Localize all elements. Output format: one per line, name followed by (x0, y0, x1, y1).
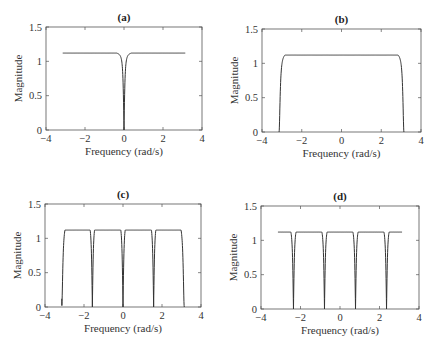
y-axis-label: Magnitude (228, 57, 240, 105)
subplot-title: (a) (118, 11, 131, 24)
y-tick-label: 1.5 (244, 201, 257, 212)
x-tick-label: 0 (121, 133, 126, 144)
x-tick-label: −2 (78, 310, 89, 321)
x-tick-label: −4 (39, 310, 51, 321)
y-tick-label: 1 (37, 56, 42, 67)
axes-frame (261, 206, 419, 309)
x-tick-label: −4 (255, 312, 267, 323)
subplot-b: −4−202400.511.5(b)Frequency (rad/s)Magni… (228, 13, 424, 160)
x-tick-label: −4 (256, 135, 268, 146)
subplot-title: (b) (335, 13, 349, 26)
y-tick-label: 0 (37, 125, 42, 136)
x-axis-label: Frequency (rad/s) (84, 322, 162, 335)
y-axis-label: Magnitude (227, 234, 239, 282)
y-tick-label: 1 (36, 233, 41, 244)
y-axis-label: Magnitude (12, 55, 24, 103)
subplot-title: (c) (117, 188, 130, 201)
x-tick-label: −4 (40, 133, 52, 144)
x-tick-label: 4 (416, 312, 422, 323)
magnitude-curve (63, 53, 186, 130)
axes-frame (262, 29, 421, 132)
x-tick-label: 0 (339, 135, 344, 146)
y-tick-label: 1.5 (28, 199, 41, 210)
subplot-d: −4−202400.511.5(d)Frequency (rad/s)Magni… (227, 190, 422, 337)
subplot-c: −4−202400.511.5(c)Frequency (rad/s)Magni… (11, 188, 204, 335)
figure: −4−202400.511.5(a)Frequency (rad/s)Magni… (0, 0, 436, 343)
x-tick-label: 2 (159, 310, 164, 321)
y-tick-label: 0.5 (28, 267, 41, 278)
x-tick-label: 0 (337, 312, 342, 323)
y-tick-label: 0.5 (245, 92, 258, 103)
x-tick-label: 4 (198, 310, 204, 321)
x-tick-label: −2 (79, 133, 90, 144)
x-axis-label: Frequency (rad/s) (303, 147, 381, 160)
y-tick-label: 1.5 (245, 24, 258, 35)
magnitude-curve (278, 232, 402, 309)
subplot-a: −4−202400.511.5(a)Frequency (rad/s)Magni… (12, 11, 205, 158)
x-tick-label: −2 (296, 135, 307, 146)
x-axis-label: Frequency (rad/s) (85, 145, 163, 158)
y-tick-label: 0 (252, 304, 257, 315)
x-tick-label: −2 (295, 312, 306, 323)
y-axis-label: Magnitude (11, 232, 23, 280)
y-tick-label: 0.5 (29, 90, 42, 101)
x-tick-label: 4 (418, 135, 424, 146)
x-tick-label: 2 (160, 133, 165, 144)
x-tick-label: 4 (199, 133, 205, 144)
x-axis-label: Frequency (rad/s) (301, 324, 379, 337)
y-tick-label: 0 (253, 127, 258, 138)
y-tick-label: 1.5 (29, 22, 42, 33)
y-tick-label: 0 (36, 302, 41, 313)
x-tick-label: 2 (377, 312, 382, 323)
x-tick-label: 0 (120, 310, 125, 321)
y-tick-label: 1 (252, 235, 257, 246)
magnitude-curve (279, 55, 404, 132)
y-tick-label: 1 (253, 58, 258, 69)
magnitude-curve (62, 230, 185, 307)
x-tick-label: 2 (379, 135, 384, 146)
subplot-title: (d) (333, 190, 347, 203)
y-tick-label: 0.5 (244, 269, 257, 280)
